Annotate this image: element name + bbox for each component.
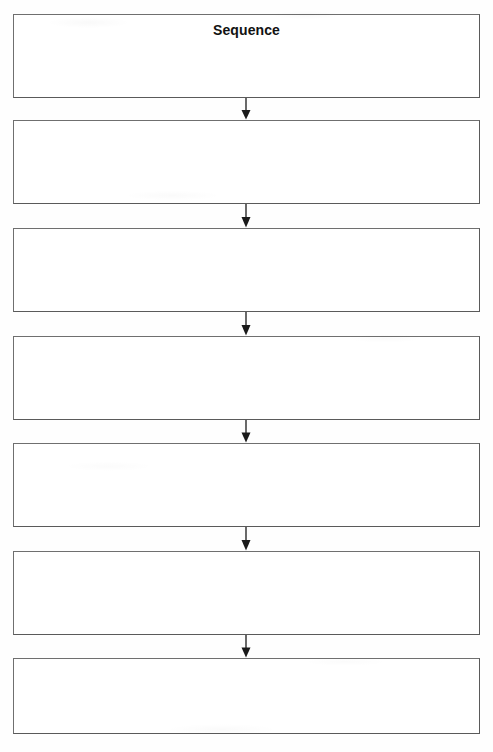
sequence-step-text-7[interactable] [14, 666, 479, 676]
sequence-step-text-6[interactable] [14, 559, 479, 569]
arrow-down-icon [237, 527, 255, 551]
arrow-down-icon [237, 635, 255, 658]
page-title: Sequence [14, 22, 479, 38]
sequence-step-text-3[interactable] [14, 236, 479, 246]
sequence-step-box-2[interactable] [13, 120, 480, 204]
arrow-down-icon [237, 98, 255, 120]
sequence-step-box-6[interactable] [13, 551, 480, 635]
connector-arrow-6 [237, 635, 255, 658]
sequence-step-box-1[interactable]: Sequence [13, 14, 480, 98]
connector-arrow-5 [237, 527, 255, 551]
sequence-worksheet: Sequence [0, 0, 493, 752]
sequence-step-text-2[interactable] [14, 128, 479, 138]
connector-arrow-4 [237, 420, 255, 443]
arrow-down-icon [237, 312, 255, 336]
arrow-down-icon [237, 420, 255, 443]
sequence-step-box-3[interactable] [13, 228, 480, 312]
sequence-step-text-4[interactable] [14, 344, 479, 354]
sequence-step-box-7[interactable] [13, 658, 480, 734]
connector-arrow-2 [237, 204, 255, 228]
connector-arrow-1 [237, 98, 255, 120]
sequence-step-text-5[interactable] [14, 451, 479, 461]
sequence-step-box-4[interactable] [13, 336, 480, 420]
sequence-step-text-1[interactable] [14, 38, 479, 48]
sequence-step-box-5[interactable] [13, 443, 480, 527]
arrow-down-icon [237, 204, 255, 228]
connector-arrow-3 [237, 312, 255, 336]
